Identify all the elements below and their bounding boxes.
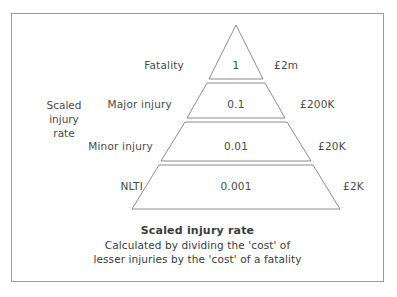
axis-label-line-2: injury: [28, 112, 100, 126]
figure-caption: Scaled injury rate Calculated by dividin…: [11, 224, 384, 266]
tier-label-minor-injury: Minor injury: [88, 140, 153, 152]
tier-cost-fatality: £2m: [274, 59, 298, 71]
tier-cost-nlti: £2K: [343, 180, 364, 192]
axis-label-scaled-injury-rate: Scaled injury rate: [28, 98, 100, 140]
axis-label-line-1: Scaled: [28, 98, 100, 112]
caption-title: Scaled injury rate: [11, 224, 384, 238]
tier-value-major-injury: 0.1: [206, 98, 266, 110]
tier-cost-major-injury: £200K: [300, 98, 335, 110]
caption-line-1: Calculated by dividing the 'cost' of: [11, 238, 384, 252]
tier-label-nlti: NLTI: [120, 180, 143, 192]
tier-cost-minor-injury: £20K: [318, 140, 346, 152]
tier-value-minor-injury: 0.01: [206, 140, 266, 152]
axis-label-line-3: rate: [28, 126, 100, 140]
tier-label-major-injury: Major injury: [107, 98, 172, 110]
tier-value-nlti: 0.001: [206, 180, 266, 192]
injury-pyramid-figure: Scaled injury rate Fatality Major injury…: [0, 0, 397, 297]
tier-label-fatality: Fatality: [144, 59, 184, 71]
tier-value-fatality: 1: [206, 59, 266, 71]
caption-line-2: lesser injuries by the 'cost' of a fatal…: [11, 252, 384, 266]
